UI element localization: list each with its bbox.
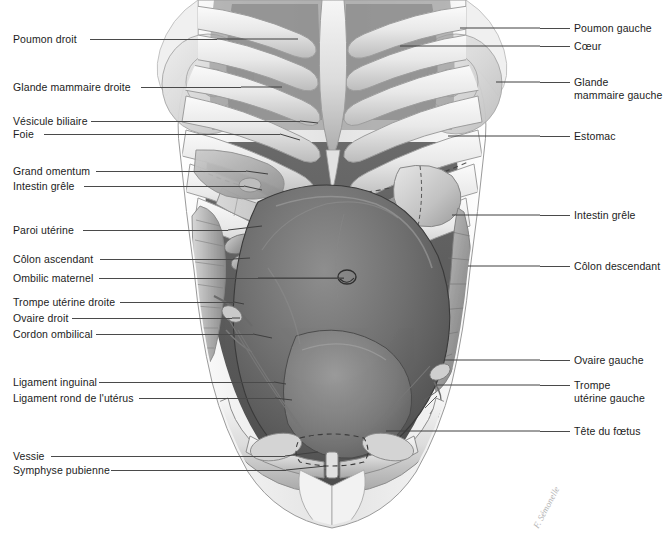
right-leader-6 <box>540 360 570 361</box>
left-label-6: Paroi utérine <box>13 224 74 237</box>
right-leader-5 <box>540 266 570 267</box>
left-leader-9 <box>120 302 234 303</box>
left-label-15: Symphyse pubienne <box>13 464 110 477</box>
left-leader-8 <box>99 278 344 279</box>
right-label-8: Tête du fœtus <box>574 425 641 438</box>
left-leader-14 <box>51 456 285 457</box>
left-label-13: Ligament rond de l'utérus <box>13 392 134 405</box>
left-leader-11 <box>96 334 253 335</box>
left-label-14: Vessie <box>13 450 45 463</box>
left-label-7: Côlon ascendant <box>13 253 93 266</box>
right-label-0: Poumon gauche <box>574 22 652 35</box>
right-label-5: Côlon descendant <box>574 260 660 273</box>
left-leader-15 <box>111 470 286 471</box>
anatomical-figure: Poumon droitGlande mammaire droiteVésicu… <box>0 0 663 540</box>
left-leader-3 <box>44 134 280 135</box>
left-leader-5 <box>84 186 244 187</box>
left-label-1: Glande mammaire droite <box>13 81 131 94</box>
right-leader-7 <box>540 385 570 386</box>
left-label-4: Grand omentum <box>13 165 90 178</box>
left-label-10: Ovaire droit <box>13 312 68 325</box>
right-leader-4 <box>540 215 570 216</box>
right-leader-1 <box>540 46 570 47</box>
left-label-2: Vésicule biliaire <box>13 115 88 128</box>
right-leader-0 <box>540 28 570 29</box>
left-leader-0 <box>90 39 217 40</box>
right-leader-8 <box>540 431 570 432</box>
left-leader-6 <box>83 230 228 231</box>
left-leader-7 <box>100 259 233 260</box>
left-leader-2 <box>91 121 300 122</box>
right-label-1: Cœur <box>574 40 601 53</box>
left-label-12: Ligament inguinal <box>13 376 97 389</box>
right-label-3: Estomac <box>574 130 616 143</box>
right-label-2: Glande mammaire gauche <box>574 76 662 101</box>
right-label-7: Trompe utérine gauche <box>574 379 645 404</box>
left-label-5: Intestin grêle <box>13 180 75 193</box>
left-label-9: Trompe utérine droite <box>13 296 115 309</box>
left-leader-12 <box>99 382 274 383</box>
left-label-0: Poumon droit <box>13 33 77 46</box>
right-leader-3 <box>540 136 570 137</box>
left-leader-1 <box>141 87 241 88</box>
pubic-symphysis <box>326 452 338 478</box>
right-label-6: Ovaire gauche <box>574 354 644 367</box>
left-leader-4 <box>96 171 246 172</box>
left-leader-10 <box>72 318 232 319</box>
left-label-3: Foie <box>13 128 34 141</box>
left-label-8: Ombilic maternel <box>13 272 93 285</box>
left-leader-13 <box>139 398 275 399</box>
right-leader-2 <box>540 82 570 83</box>
left-label-11: Cordon ombilical <box>13 328 93 341</box>
right-label-4: Intestin grêle <box>574 209 636 222</box>
